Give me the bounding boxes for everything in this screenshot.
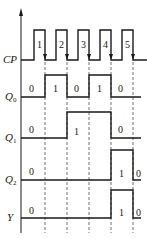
signal-label-q1: Q1 [5, 131, 17, 145]
q0-value-5: 0 [118, 83, 123, 94]
q1-waveform [21, 112, 141, 138]
q1-value-2: 1 [74, 126, 79, 137]
y-value-3: 0 [136, 207, 141, 218]
signal-label-q2: Q2 [5, 173, 17, 187]
q0-value-1: 0 [29, 83, 34, 94]
q2-value-2: 1 [119, 168, 124, 179]
q2-value-3: 0 [136, 168, 141, 179]
y-value-2: 1 [119, 207, 124, 218]
axis-arrow-icon [19, 8, 23, 16]
q2-value-1: 0 [29, 166, 34, 177]
signal-label-y: Y [7, 211, 15, 223]
signal-label-cp: CP [3, 53, 17, 65]
pulse-number-2: 2 [59, 39, 64, 50]
q0-value-2: 1 [53, 83, 58, 94]
pulse-number-4: 4 [103, 39, 108, 50]
q1-value-3: 0 [118, 124, 123, 135]
q0-waveform [21, 75, 141, 97]
y-value-1: 0 [29, 205, 34, 216]
q0-value-4: 1 [97, 83, 102, 94]
q0-value-3: 0 [74, 83, 79, 94]
pulse-number-3: 3 [81, 39, 86, 50]
q1-value-1: 0 [29, 124, 34, 135]
signal-label-q0: Q0 [5, 90, 17, 104]
timing-diagram: 1 2 3 4 5 CP Q0 Q1 Q2 Y 0 1 0 1 0 0 1 0 … [0, 0, 147, 239]
pulse-number-5: 5 [125, 39, 130, 50]
pulse-number-1: 1 [37, 39, 42, 50]
falling-edge-arrow-icons [43, 54, 135, 60]
